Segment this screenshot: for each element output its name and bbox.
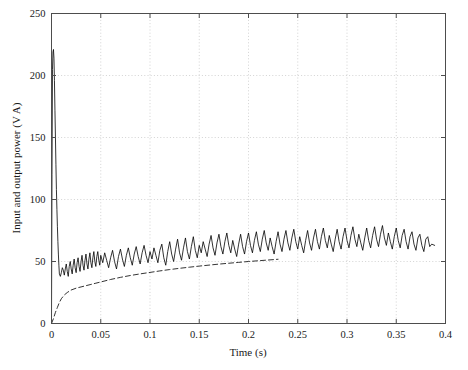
- y-tick-label: 150: [30, 132, 46, 143]
- series-line: [52, 259, 279, 323]
- x-tick-label: 0.4: [439, 329, 453, 340]
- plot-axes: [52, 14, 446, 324]
- axis-ticks: [52, 14, 446, 324]
- y-tick-label: 200: [30, 70, 46, 81]
- x-tick-label: 0.25: [289, 329, 307, 340]
- x-tick-label: 0.1: [143, 329, 156, 340]
- x-tick-label: 0.2: [242, 329, 255, 340]
- y-tick-label: 100: [30, 194, 46, 205]
- x-tick-label: 0.35: [387, 329, 405, 340]
- gridlines: [52, 14, 446, 324]
- x-tick-label: 0.05: [92, 329, 110, 340]
- x-axis-title: Time (s): [229, 346, 267, 359]
- x-tick-label: 0.15: [190, 329, 208, 340]
- data-series-group: [52, 49, 435, 323]
- y-tick-label: 50: [35, 256, 46, 267]
- chart-figure: 00.050.10.150.20.250.30.350.405010015020…: [0, 0, 468, 370]
- axis-tick-labels: 00.050.10.150.20.250.30.350.405010015020…: [30, 8, 453, 339]
- y-tick-label: 250: [30, 8, 46, 19]
- y-tick-label: 0: [40, 318, 45, 329]
- power-line-chart: 00.050.10.150.20.250.30.350.405010015020…: [0, 0, 468, 370]
- series-line: [52, 49, 435, 323]
- x-tick-label: 0.3: [340, 329, 353, 340]
- x-tick-label: 0: [49, 329, 54, 340]
- y-axis-title: Input and output power (V A): [10, 102, 23, 233]
